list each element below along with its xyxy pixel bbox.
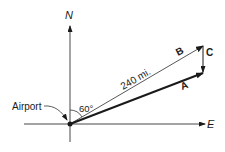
airport-leader — [44, 106, 67, 120]
airport-origin-dot — [68, 122, 73, 127]
angle-label: 60° — [79, 103, 94, 114]
east-label: E — [207, 118, 215, 130]
airport-label: Airport — [12, 101, 42, 112]
vector-c-label: C — [206, 47, 213, 58]
vector-diagram: N E Airport 60° 240 mi. B C A — [0, 0, 225, 152]
vector-b-label: B — [174, 45, 186, 58]
vector-a-label: A — [179, 79, 190, 92]
north-label: N — [65, 9, 73, 21]
